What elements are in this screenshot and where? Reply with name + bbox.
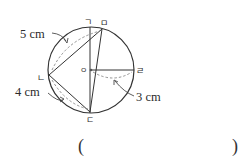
answer-blank[interactable]	[88, 136, 228, 158]
label-4cm: 4 cm	[15, 85, 40, 99]
label-center-o: ㅇ	[80, 66, 87, 75]
dashed-arc-3cm	[93, 72, 132, 78]
label-point-n: ㄴ	[37, 73, 45, 83]
answer-open-paren: (	[78, 136, 84, 157]
leader-3cm	[115, 81, 134, 96]
label-point-g: ㄱ	[84, 17, 92, 27]
label-5cm: 5 cm	[20, 27, 45, 41]
answer-close-paren: )	[232, 136, 238, 157]
label-point-r: ㄹ	[136, 66, 144, 76]
label-3cm: 3 cm	[136, 90, 161, 104]
chord-n-m	[49, 29, 102, 75]
label-point-d: ㄷ	[86, 115, 94, 125]
label-point-m: ㅁ	[100, 18, 108, 28]
center-point	[90, 69, 93, 72]
